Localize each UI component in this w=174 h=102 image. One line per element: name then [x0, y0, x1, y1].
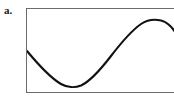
sine-curve-chart: [27, 9, 174, 93]
part-label: a.: [4, 2, 24, 18]
sine-curve-path: [27, 20, 174, 87]
figure-root: a.: [0, 0, 174, 102]
plot-frame: [26, 8, 174, 93]
